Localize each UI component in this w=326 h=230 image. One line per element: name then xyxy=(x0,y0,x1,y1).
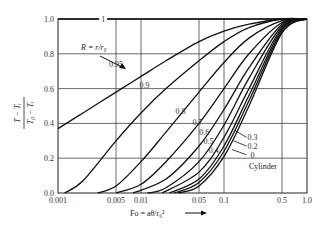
x-axis-label: Fo = aθ/r₀² xyxy=(130,209,165,218)
y-axis-label-denominator: T₀ − Tᵢ xyxy=(26,102,35,124)
curve-label-leader xyxy=(233,141,246,146)
curve-R-0_7 xyxy=(116,19,307,193)
y-tick-label: 0.0 xyxy=(44,189,54,198)
curve-label: 0.7 xyxy=(193,118,203,127)
curve-label: 0.6 xyxy=(199,128,209,137)
curve-label: 0.2 xyxy=(247,142,257,151)
curve-label: 0.5 xyxy=(203,137,213,146)
curve-R-0 xyxy=(178,19,307,193)
y-tick-label: 0.8 xyxy=(44,50,54,59)
curve-label: 0.8 xyxy=(176,107,186,116)
x-tick-label: 0.1 xyxy=(219,196,229,205)
x-tick-label: 0.5 xyxy=(277,196,287,205)
y-tick-label: 0.2 xyxy=(44,154,54,163)
x-tick-label: 0.05 xyxy=(192,196,206,205)
y-axis-label-numerator: T − Tᵢ xyxy=(13,103,22,122)
y-tick-label: 1.0 xyxy=(44,15,54,24)
x-tick-label: 0.005 xyxy=(107,196,125,205)
y-tick-label: 0.4 xyxy=(44,119,54,128)
curve-label: 0.4 xyxy=(209,146,219,155)
x-tick-label: 1.0 xyxy=(302,196,312,205)
curve-R-0_5 xyxy=(148,19,307,193)
curve-label: 0.3 xyxy=(247,133,257,142)
x-axis-arrow-head xyxy=(201,211,207,216)
curve-label-leader xyxy=(232,150,246,155)
x-tick-label: 0.01 xyxy=(134,196,148,205)
curve-label: 1 xyxy=(101,15,105,24)
curve-R-0_3 xyxy=(169,19,307,193)
chart: 0.0010.0050.010.050.10.51.00.00.20.40.60… xyxy=(0,0,326,230)
curve-label: 0.9 xyxy=(139,81,149,90)
cylinder-annotation: Cylinder xyxy=(249,162,277,171)
y-tick-label: 0.6 xyxy=(44,85,54,94)
y-axis-label: T − Tᵢ T₀ − Tᵢ xyxy=(13,97,35,129)
parameter-label: R = r/r₀ xyxy=(80,43,107,52)
curve-label: 0 xyxy=(250,151,254,160)
